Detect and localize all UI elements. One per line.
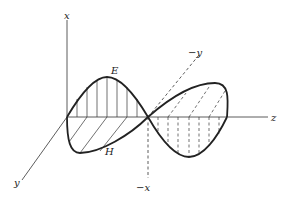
em-wave-diagram: x z y −y −x E H <box>0 0 289 201</box>
e-field-hatching-second-lobe <box>158 117 219 157</box>
x-axis-label: x <box>64 10 70 21</box>
y-axis <box>22 117 67 180</box>
neg-y-axis-label: −y <box>188 47 202 58</box>
neg-y-axis <box>148 55 199 117</box>
e-field-label: E <box>110 65 119 76</box>
e-field-hatching-first-lobe <box>77 77 137 117</box>
y-axis-label: y <box>13 177 20 188</box>
z-axis-label: z <box>270 112 277 123</box>
h-field-label: H <box>104 146 114 157</box>
h-field-curve <box>67 83 228 153</box>
h-field-hatching-first-lobe <box>69 117 127 153</box>
h-field-hatching-second-lobe <box>168 87 225 117</box>
neg-x-axis-label: −x <box>136 182 150 193</box>
